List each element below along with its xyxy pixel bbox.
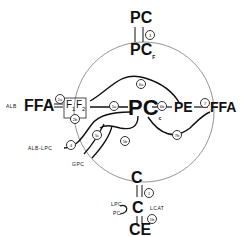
node-pc-cell-label: PC	[128, 95, 159, 120]
node-f1-sub: 1	[72, 106, 75, 112]
reaction-badge-7b: 7b	[172, 130, 182, 140]
node-c-plasma: C	[131, 170, 143, 186]
node-ce: CE	[129, 222, 151, 237]
node-pc-f: PCF	[130, 42, 155, 60]
reaction-badge-2a: 2a	[55, 94, 65, 104]
node-ffa-right: FFA	[210, 100, 236, 114]
reaction-badge-3: 3	[145, 30, 155, 40]
node-lpc: LPC	[111, 202, 122, 207]
node-pc-cell: PCc	[128, 97, 161, 121]
reaction-badge-5a: 5a	[109, 101, 119, 111]
node-lcat: LCAT	[150, 206, 164, 211]
node-pe: PE	[174, 100, 193, 114]
node-alb-lpc: ALB-LPC	[28, 146, 52, 151]
reaction-badge-1: 1	[144, 188, 154, 198]
reaction-badge-5c: 5c	[92, 130, 102, 140]
node-pc-small: PC	[113, 211, 121, 216]
reaction-badge-5b: 5b	[120, 136, 130, 146]
node-pc-f-sub: F	[152, 54, 155, 60]
node-pc-plasma: PC	[130, 10, 152, 26]
reaction-badge-4: 4	[66, 140, 76, 150]
node-pc-cell-sub: c	[159, 115, 162, 121]
node-c-mid: C	[132, 200, 144, 216]
reaction-badge-7: 7	[200, 98, 210, 108]
reaction-badge-2b: 2b	[70, 114, 80, 124]
pathway-diagram-lines	[0, 0, 246, 237]
reaction-badge-6b: 6b	[157, 101, 167, 111]
node-alb: ALB	[6, 104, 17, 109]
node-f2-sub: 2	[82, 106, 85, 112]
node-ffa-left: FFA	[24, 98, 54, 114]
node-gpc: GPC	[72, 162, 84, 167]
reaction-badge-6a: 6a	[136, 79, 146, 89]
node-f1: F1	[66, 100, 75, 112]
node-pc-f-label: PC	[130, 41, 152, 58]
node-f2: F2	[76, 100, 85, 112]
